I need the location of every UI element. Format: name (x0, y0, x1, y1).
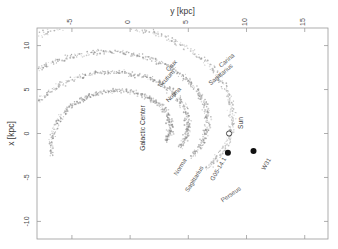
marker-source-w31 (251, 148, 257, 154)
annotation-galactic-center: Galactic Center (139, 104, 146, 150)
top-tick-label: -5 (66, 19, 73, 25)
top-tick-label: 15 (299, 18, 306, 26)
left-tick-label: -10 (23, 216, 30, 226)
left-axis-title: x [kpc] (6, 121, 16, 146)
left-tick-label: 0 (23, 131, 30, 135)
top-tick-label: 0 (124, 20, 131, 24)
top-tick-label: 5 (182, 20, 189, 24)
top-tick-label: 10 (241, 18, 248, 26)
milky-way-spiral-arm-map: -5051015-10-50510y [kpc]x [kpc] Galactic… (0, 0, 338, 249)
left-tick-label: -5 (23, 174, 30, 180)
left-tick-label: 10 (23, 42, 30, 50)
marker-source-g05 (225, 150, 231, 156)
left-tick-label: 5 (23, 87, 30, 91)
annotation-sun: Sun (237, 117, 244, 129)
top-axis-title: y [kpc] (170, 6, 195, 16)
marker-sun (226, 131, 231, 136)
